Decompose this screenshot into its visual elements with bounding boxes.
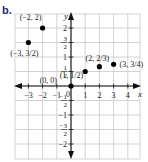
data-point (83, 69, 88, 74)
x-tick-label: 2 (97, 91, 101, 100)
y-tick-label-denominator: 2 (64, 101, 68, 109)
data-point (97, 64, 102, 69)
data-point-label: (−2, 2) (20, 13, 42, 22)
y-tick-label-numerator: 3 (64, 35, 68, 43)
data-point (111, 62, 116, 67)
data-point-label: (−3, 3/2) (10, 49, 38, 58)
y-tick-label: 1 (63, 53, 67, 62)
y-tick-label: −1 (58, 111, 67, 120)
data-point-label: (3, 3/4) (120, 60, 144, 69)
y-tick-label-denominator: 2 (64, 43, 68, 51)
data-point-label: (1, 1/2) (60, 71, 84, 80)
y-axis-label: y (63, 11, 68, 21)
y-axis-down-arrow-icon (68, 151, 74, 159)
y-tick-label-numerator: −3 (60, 122, 68, 130)
x-tick-label: 1 (83, 91, 87, 100)
data-point (68, 83, 73, 88)
y-tick-label-numerator: −1 (60, 93, 68, 101)
y-tick-label: 2 (63, 24, 67, 33)
y-tick-label: −2 (58, 140, 67, 149)
y-tick-label-denominator: 2 (64, 130, 68, 138)
data-point-label: (2, 2/3) (86, 54, 110, 63)
y-axis-up-arrow-icon (68, 12, 74, 20)
x-tick-label: 3 (112, 91, 116, 100)
x-axis-label: x (137, 89, 142, 99)
x-tick-label: 4 (126, 91, 130, 100)
coordinate-plane: yx −3−2−112340232112−12−1−32−2 (−2, 2)(−… (0, 0, 148, 162)
x-tick-label: −2 (38, 91, 47, 100)
x-tick-label: −3 (24, 91, 33, 100)
data-points: (−2, 2)(−3, 3/2)(0, 0)(1, 1/2)(2, 2/3)(3… (10, 13, 143, 89)
data-point (26, 40, 31, 45)
data-point (40, 25, 45, 30)
data-point-label: (0, 0) (40, 76, 58, 85)
axes: yx (14, 11, 142, 159)
